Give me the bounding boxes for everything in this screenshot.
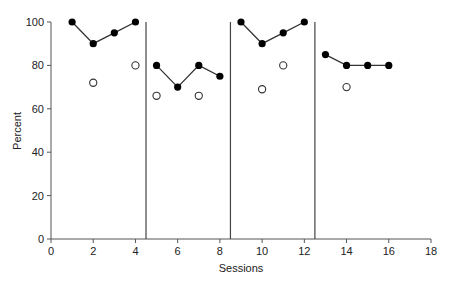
open-point (195, 92, 202, 99)
series-line (325, 55, 388, 66)
x-tick-label: 16 (383, 245, 395, 257)
x-tick-label: 2 (90, 245, 96, 257)
x-tick-label: 0 (48, 245, 54, 257)
x-tick-label: 12 (298, 245, 310, 257)
series-line (72, 22, 135, 44)
y-tick-label: 80 (32, 59, 44, 71)
filled-point (195, 62, 202, 69)
filled-point (69, 18, 76, 25)
phase-change-lines (146, 22, 315, 239)
axes: 020406080100024681012141618 (26, 16, 437, 257)
filled-point (385, 62, 392, 69)
x-tick-label: 4 (132, 245, 138, 257)
open-point (153, 92, 160, 99)
y-tick-label: 40 (32, 146, 44, 158)
filled-point (343, 62, 350, 69)
filled-point (90, 40, 97, 47)
filled-point (132, 18, 139, 25)
filled-point (280, 29, 287, 36)
open-point (132, 62, 139, 69)
x-tick-label: 14 (340, 245, 352, 257)
filled-point (322, 51, 329, 58)
y-tick-label: 20 (32, 190, 44, 202)
chart: 020406080100024681012141618 Sessions Per… (0, 0, 449, 284)
filled-point (364, 62, 371, 69)
y-tick-label: 60 (32, 103, 44, 115)
filled-point (301, 18, 308, 25)
open-point (259, 86, 266, 93)
filled-point (111, 29, 118, 36)
x-tick-label: 6 (175, 245, 181, 257)
x-tick-label: 18 (425, 245, 437, 257)
filled-point (216, 73, 223, 80)
x-axis-label: Sessions (219, 262, 264, 274)
filled-point (259, 40, 266, 47)
series-line (241, 22, 304, 44)
open-point (343, 84, 350, 91)
filled-point (237, 18, 244, 25)
filled-point (174, 84, 181, 91)
y-axis-label: Percent (11, 112, 23, 150)
open-point (280, 62, 287, 69)
filled-point (153, 62, 160, 69)
y-tick-label: 0 (38, 233, 44, 245)
x-tick-label: 8 (217, 245, 223, 257)
x-tick-label: 10 (256, 245, 268, 257)
series-line (157, 65, 220, 87)
open-point (90, 79, 97, 86)
y-tick-label: 100 (26, 16, 44, 28)
